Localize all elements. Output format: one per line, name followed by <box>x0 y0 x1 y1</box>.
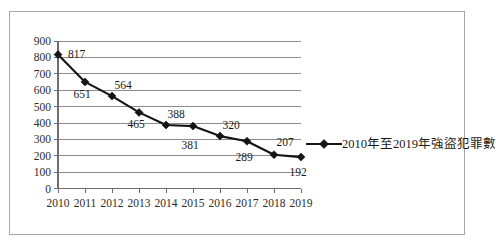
x-tick-label: 2011 <box>74 197 97 209</box>
chart-legend: 2010年至2019年強盜犯罪數 <box>306 138 496 151</box>
x-tick-label: 2019 <box>290 197 313 209</box>
x-tick-marks <box>58 189 301 193</box>
x-tick-label: 2016 <box>209 197 232 209</box>
y-axis-tick-labels: 900 800 700 600 500 400 300 200 100 0 <box>34 35 52 195</box>
data-label: 564 <box>114 79 132 91</box>
data-label: 465 <box>127 118 145 130</box>
data-point-marker <box>297 153 305 161</box>
y-tick-label: 500 <box>34 101 52 113</box>
y-tick-label: 400 <box>34 117 52 129</box>
data-point-marker <box>162 121 170 129</box>
line-chart-plot: 900 800 700 600 500 400 300 200 100 0 20… <box>10 12 464 234</box>
y-tick-label: 300 <box>34 133 52 145</box>
x-tick-label: 2010 <box>47 197 70 209</box>
x-tick-label: 2015 <box>182 197 205 209</box>
series-line-robbery <box>58 55 301 158</box>
x-tick-label: 2017 <box>236 197 259 209</box>
chart-frame: 900 800 700 600 500 400 300 200 100 0 20… <box>9 11 465 235</box>
y-tick-label: 200 <box>34 150 52 162</box>
y-tick-label: 700 <box>34 68 52 80</box>
data-label: 320 <box>222 119 240 131</box>
gridlines <box>58 41 301 172</box>
data-value-labels: 817 651 564 465 388 381 320 289 207 192 <box>68 48 307 178</box>
series-markers <box>54 51 305 162</box>
data-point-marker <box>243 137 251 145</box>
y-tick-label: 100 <box>34 166 52 178</box>
y-tick-label: 0 <box>45 183 51 195</box>
data-label: 388 <box>167 108 185 120</box>
y-tick-label: 900 <box>34 35 52 47</box>
x-tick-label: 2012 <box>101 197 124 209</box>
legend-line-diamond-marker-icon <box>306 138 342 150</box>
data-label: 381 <box>181 139 199 151</box>
y-tick-label: 800 <box>34 51 52 63</box>
data-label: 289 <box>235 151 253 163</box>
x-tick-label: 2018 <box>263 197 286 209</box>
data-label: 817 <box>68 48 86 60</box>
y-tick-label: 600 <box>34 84 52 96</box>
data-label: 192 <box>289 166 307 178</box>
data-label: 207 <box>276 136 294 148</box>
x-tick-label: 2014 <box>155 197 178 209</box>
x-tick-label: 2013 <box>128 197 151 209</box>
data-label: 651 <box>73 88 91 100</box>
x-axis-tick-labels: 2010 2011 2012 2013 2014 2015 2016 2017 … <box>47 197 313 209</box>
data-point-marker <box>270 151 278 159</box>
legend-entry-label: 2010年至2019年強盜犯罪數 <box>342 138 496 151</box>
